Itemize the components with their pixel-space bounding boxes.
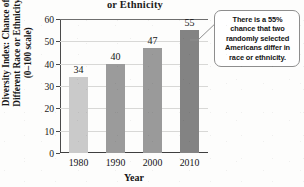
callout-line-5: race or ethnicity.: [220, 53, 295, 62]
y-tick-mark: [56, 131, 60, 132]
x-axis-label: Year: [60, 172, 208, 183]
y-tick-label: 50: [44, 36, 54, 47]
bar-value-label: 47: [148, 35, 158, 46]
y-tick-label: 20: [44, 103, 54, 114]
y-tick-mark: [56, 108, 60, 109]
y-tick-label: 30: [44, 81, 54, 92]
callout-line-3: randomly selected: [220, 34, 295, 43]
y-tick-label: 40: [44, 58, 54, 69]
bar: 472000: [143, 48, 162, 153]
callout-line-2: chance that two: [220, 24, 295, 33]
x-tick-label: 1980: [69, 157, 89, 168]
y-tick-label: 60: [44, 14, 54, 25]
chart-figure: or Ethnicity Diversity Index: Chance of …: [0, 0, 304, 187]
y-tick-mark: [56, 86, 60, 87]
y-tick-mark: [56, 19, 60, 20]
y-tick-mark: [56, 41, 60, 42]
plot-area: 0102030405060 341980401990472000552010: [60, 19, 208, 153]
x-tick-label: 2000: [143, 157, 163, 168]
x-tick-label: 2010: [180, 157, 200, 168]
y-axis-label-line-2: Different Race or Ethnicity: [12, 0, 23, 119]
bar-value-label: 34: [74, 64, 84, 75]
y-axis-label-line-3: (0–100 scale): [24, 0, 35, 119]
y-axis-label-line-1: Diversity Index: Chance of: [1, 0, 12, 119]
y-tick-label: 10: [44, 125, 54, 136]
bar: 341980: [69, 77, 88, 153]
y-axis-label: Diversity Index: Chance of Different Rac…: [1, 0, 35, 119]
bar: 552010: [180, 30, 199, 153]
bar: 401990: [106, 64, 125, 153]
y-tick-mark: [56, 64, 60, 65]
bar-value-label: 40: [111, 51, 121, 62]
y-tick-label: 0: [49, 148, 54, 159]
callout-line-1: There is a 55%: [220, 15, 295, 24]
callout-line-4: Americans differ in: [220, 43, 295, 52]
x-tick-label: 1990: [106, 157, 126, 168]
y-tick-mark: [56, 153, 60, 154]
page-title: or Ethnicity: [60, 0, 210, 10]
annotation-callout: There is a 55% chance that two randomly …: [214, 10, 300, 67]
